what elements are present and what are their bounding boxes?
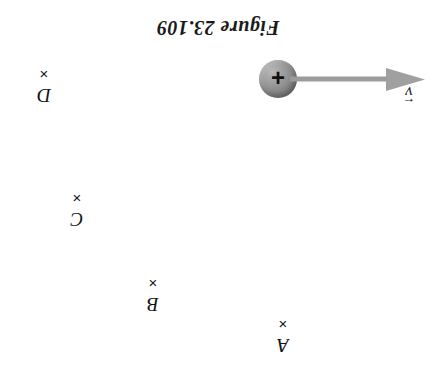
point-label-b: B (133, 294, 173, 315)
point-marker-a: × A (263, 316, 303, 356)
figure-title: Figure 23.109 (0, 17, 436, 39)
point-marker-d: × D (24, 66, 64, 106)
point-label-a: A (263, 335, 303, 356)
point-label-d: D (24, 85, 64, 106)
figure-canvas: Figure 23.109 + ← v × D × C × B × A (0, 0, 436, 379)
cross-icon: × (57, 190, 97, 205)
point-marker-c: × C (57, 190, 97, 230)
cross-icon: × (24, 66, 64, 81)
velocity-vector-label: ← v (396, 84, 422, 106)
cross-icon: × (263, 316, 303, 331)
velocity-symbol: v (396, 84, 422, 100)
point-label-c: C (57, 209, 97, 230)
cross-icon: × (133, 275, 173, 290)
point-marker-b: × B (133, 275, 173, 315)
